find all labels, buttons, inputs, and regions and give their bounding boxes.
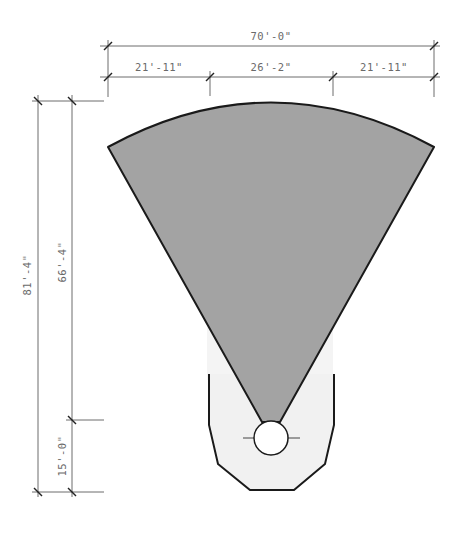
fan-sector	[108, 103, 434, 423]
overall-height-label: 81'-4"	[21, 255, 33, 296]
segment-upper-height-label: 66'-4"	[56, 242, 68, 283]
segment-right-label: 21'-11"	[360, 61, 408, 73]
horizontal-dimensions: 70'-0" 21'-11" 26'-2" 21'-11"	[100, 30, 440, 97]
post-circle	[254, 421, 288, 455]
vertical-dimensions: 81'-4" 66'-4" 15'-0"	[21, 95, 104, 497]
plan-drawing: 70'-0" 21'-11" 26'-2" 21'-11" 81'-4" 66'…	[0, 0, 467, 534]
segment-left-label: 21'-11"	[135, 61, 183, 73]
segment-center-label: 26'-2"	[251, 61, 292, 73]
overall-width-label: 70'-0"	[251, 30, 292, 42]
segment-lower-height-label: 15'-0"	[56, 436, 68, 477]
